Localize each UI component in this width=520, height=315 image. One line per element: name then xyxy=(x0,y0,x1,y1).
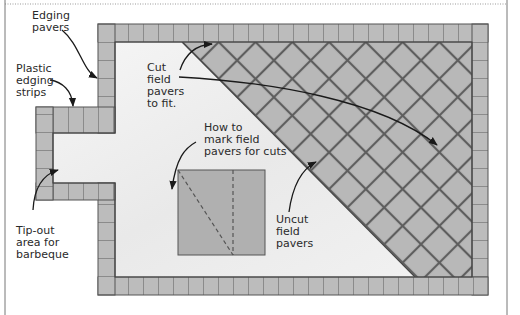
cut-marking-example xyxy=(178,170,265,255)
label-cut-field-pavers: Cut field pavers to fit. xyxy=(147,62,184,110)
label-how-to-mark: How to mark field pavers for cuts xyxy=(204,122,286,158)
label-plastic-edging-strips: Plastic edging strips xyxy=(16,63,54,99)
label-tip-out-area: Tip-out area for barbeque xyxy=(16,225,69,261)
label-edging-pavers: Edging pavers xyxy=(32,10,70,34)
diagram-frame: Edging pavers Plastic edging strips Tip-… xyxy=(0,0,520,315)
label-uncut-field-pavers: Uncut field pavers xyxy=(276,214,313,250)
arrow-edging-pavers xyxy=(62,30,97,78)
